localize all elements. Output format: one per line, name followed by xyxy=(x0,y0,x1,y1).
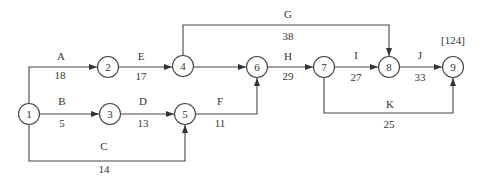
label-h-name: H xyxy=(284,50,292,62)
svg-text:6: 6 xyxy=(254,61,260,73)
label-f-name: F xyxy=(217,95,223,107)
label-a-duration: 18 xyxy=(55,69,67,81)
svg-text:1: 1 xyxy=(26,108,32,120)
label-d-duration: 13 xyxy=(138,117,150,129)
label-i-name: I xyxy=(354,49,358,61)
total-duration-label: [124] xyxy=(441,34,465,46)
label-g-name: G xyxy=(284,8,292,20)
label-a-name: A xyxy=(57,50,65,62)
node-1: 1 xyxy=(19,104,40,125)
label-c-name: C xyxy=(100,140,107,152)
label-f-duration: 11 xyxy=(215,117,226,129)
svg-text:3: 3 xyxy=(107,108,113,120)
label-j-name: J xyxy=(418,49,423,61)
node-2: 2 xyxy=(98,57,119,78)
label-b-duration: 5 xyxy=(59,117,65,129)
label-i-duration: 27 xyxy=(351,71,363,83)
activity-labels: A 18 B 5 C 14 D 13 E 17 F 11 G 38 H 29 I… xyxy=(55,8,465,175)
node-6: 6 xyxy=(247,57,268,78)
label-g-duration: 38 xyxy=(283,30,295,42)
node-9: 9 xyxy=(443,57,464,78)
label-c-duration: 14 xyxy=(99,163,111,175)
node-4: 4 xyxy=(173,56,194,77)
label-h-duration: 29 xyxy=(283,70,295,82)
svg-text:8: 8 xyxy=(386,61,392,73)
label-j-duration: 33 xyxy=(415,71,427,83)
network-diagram: 1 2 3 4 5 6 7 8 xyxy=(0,0,482,180)
label-k-name: K xyxy=(386,98,394,110)
label-b-name: B xyxy=(58,95,65,107)
svg-text:9: 9 xyxy=(450,61,456,73)
label-k-duration: 25 xyxy=(384,118,396,130)
edges xyxy=(29,25,453,161)
node-5: 5 xyxy=(175,104,196,125)
node-3: 3 xyxy=(100,104,121,125)
node-7: 7 xyxy=(314,57,335,78)
label-e-name: E xyxy=(138,50,145,62)
label-d-name: D xyxy=(139,95,147,107)
svg-text:2: 2 xyxy=(105,61,111,73)
node-8: 8 xyxy=(379,57,400,78)
edge-f xyxy=(196,78,257,114)
label-e-duration: 17 xyxy=(136,70,148,82)
svg-text:5: 5 xyxy=(182,108,188,120)
svg-text:7: 7 xyxy=(321,61,327,73)
svg-text:4: 4 xyxy=(180,60,186,72)
